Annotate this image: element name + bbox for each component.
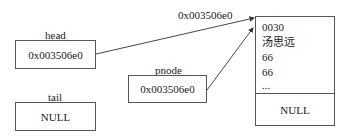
list-node: 0030 汤思远 66 66 ... NULL — [255, 16, 335, 126]
node-field: 0030 — [262, 20, 334, 35]
head-value: 0x003506e0 — [28, 49, 82, 61]
node-field: 66 — [262, 50, 334, 65]
node-next-section: NULL — [256, 94, 334, 125]
pnode-box: 0x003506e0 — [128, 75, 207, 103]
node-field: ... — [262, 80, 334, 90]
head-arrow — [96, 18, 254, 54]
node-field: 66 — [262, 65, 334, 80]
node-next-value: NULL — [280, 104, 309, 116]
tail-box: NULL — [15, 102, 96, 131]
node-field: 汤思远 — [262, 35, 334, 50]
arrow-address-label: 0x003506e0 — [178, 9, 232, 21]
head-box: 0x003506e0 — [15, 40, 96, 69]
pnode-arrow — [207, 28, 253, 90]
pnode-value: 0x003506e0 — [140, 83, 194, 95]
node-data-section: 0030 汤思远 66 66 ... — [256, 17, 334, 94]
tail-value: NULL — [41, 111, 70, 123]
